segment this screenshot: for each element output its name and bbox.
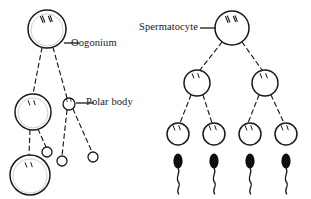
line-oogonium-to-polarbody [53, 48, 67, 99]
cell-ovum [10, 155, 50, 195]
line-left-to-spermatid-2 [203, 95, 212, 123]
line-left-to-spermatid-1 [180, 95, 191, 123]
label-spermatocyte: Spermatocyte [139, 22, 198, 33]
line-right-to-spermatid-4 [271, 95, 284, 123]
cell-polar-body-small-a [42, 147, 52, 157]
line-oocyte-to-polarbody-a [38, 129, 46, 147]
cell-secondary-spermatocyte-right [252, 70, 278, 96]
label-polar-body: Polar body [86, 97, 133, 108]
sperm-2 [209, 154, 218, 194]
cell-secondary-spermatocyte-left [184, 70, 210, 96]
spermatogenesis-group [167, 11, 297, 194]
cell-spermatid-1 [167, 123, 189, 145]
cell-primary-spermatocyte [215, 11, 249, 45]
cell-secondary-oocyte [15, 94, 51, 130]
cell-oogonium [28, 10, 66, 48]
cell-polar-body-small-b [57, 156, 67, 166]
line-oogonium-to-oocyte [33, 48, 42, 95]
label-oogonium: Oogonium [71, 38, 117, 49]
line-spermatocyte-to-right [242, 42, 262, 70]
sperm-1 [173, 154, 182, 194]
sperm-4 [281, 154, 290, 194]
cell-spermatid-4 [275, 123, 297, 145]
line-right-to-spermatid-3 [248, 95, 259, 123]
cell-spermatid-3 [239, 123, 261, 145]
line-polarbody-to-small-c [73, 109, 92, 152]
cell-polar-body-small-c [88, 152, 98, 162]
line-polarbody-to-small-b [62, 110, 67, 156]
line-oocyte-to-ovum [29, 130, 30, 155]
cell-first-polar-body [63, 98, 75, 110]
cell-spermatid-2 [203, 123, 225, 145]
sperm-3 [245, 154, 254, 194]
line-spermatocyte-to-left [200, 42, 222, 70]
meiosis-diagram: Oogonium Polar body Spermatocyte [0, 0, 311, 199]
